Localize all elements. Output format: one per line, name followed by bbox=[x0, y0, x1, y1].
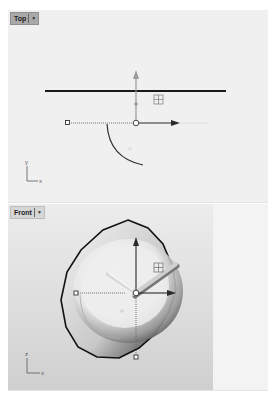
gumball-y-arrow-icon[interactable] bbox=[133, 70, 139, 79]
grid-handle-icon[interactable] bbox=[154, 95, 163, 104]
svg-text:z: z bbox=[25, 351, 28, 357]
viewport-top[interactable]: y x Top ▼ bbox=[8, 10, 268, 203]
label-separator bbox=[28, 14, 29, 23]
square-handle-bottom[interactable] bbox=[134, 355, 138, 359]
gumball-y-scale-handle[interactable] bbox=[134, 102, 138, 106]
viewport-label-text: Front bbox=[14, 207, 32, 218]
viewport-front[interactable]: z x Front ▼ bbox=[8, 204, 268, 391]
axis-indicator-top: y x bbox=[25, 159, 42, 184]
gumball-center-handle[interactable] bbox=[133, 290, 139, 296]
label-separator bbox=[34, 208, 35, 217]
front-view-canvas[interactable]: z x bbox=[8, 204, 268, 390]
rotation-arc[interactable] bbox=[107, 124, 143, 165]
viewport-label-text: Top bbox=[14, 13, 26, 24]
caret-down-icon[interactable]: ▼ bbox=[31, 13, 36, 24]
svg-text:x: x bbox=[39, 178, 42, 184]
viewport-label-top[interactable]: Top ▼ bbox=[10, 12, 39, 25]
square-handle-left[interactable] bbox=[74, 291, 78, 295]
gumball-center-handle[interactable] bbox=[133, 120, 139, 126]
top-view-canvas[interactable]: y x bbox=[8, 10, 268, 202]
gumball-x-arrow-icon[interactable] bbox=[171, 120, 180, 126]
axis-indicator-front: z x bbox=[25, 351, 44, 376]
square-handle[interactable] bbox=[66, 121, 70, 125]
viewport-label-front[interactable]: Front ▼ bbox=[10, 206, 45, 219]
arc-center-marker bbox=[129, 148, 132, 151]
svg-text:y: y bbox=[25, 159, 28, 165]
caret-down-icon[interactable]: ▼ bbox=[37, 207, 42, 218]
svg-text:x: x bbox=[41, 370, 44, 376]
